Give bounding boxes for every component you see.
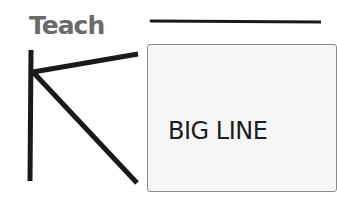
- label-card: BIG LINE: [147, 44, 337, 192]
- letter-k-icon: [0, 0, 160, 208]
- card-label: BIG LINE: [168, 116, 267, 146]
